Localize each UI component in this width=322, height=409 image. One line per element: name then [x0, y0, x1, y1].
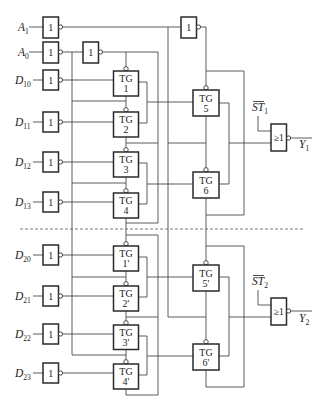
or-gate-symbol: ≥1 — [274, 133, 284, 143]
inversion-bubble — [287, 309, 291, 313]
out-tg3p-tg4p — [139, 336, 194, 375]
tg-number: 2 — [124, 124, 129, 135]
label-d22: D22 — [14, 328, 31, 343]
label-subscript: 20 — [23, 255, 31, 264]
wire-st1 — [258, 116, 271, 131]
label-subscript: 21 — [23, 296, 31, 305]
tg-2: TG 2 — [114, 108, 139, 137]
tg-1: TG 1 — [114, 67, 139, 96]
inversion-bubble — [58, 294, 62, 298]
inversion-bubble — [196, 25, 200, 29]
tg-5-prime: TG 5' — [193, 261, 219, 291]
label-subscript: 0 — [25, 52, 29, 61]
label-subscript: 1 — [25, 27, 29, 36]
not-gate-symbol: 1 — [48, 329, 53, 340]
not-gate-d23: 1 — [43, 363, 63, 383]
not-gate-symbol: 1 — [48, 75, 53, 86]
tg-6: TG 6 — [193, 168, 219, 198]
inversion-bubble — [58, 50, 62, 54]
nor-gate-1: ≥1 — [271, 124, 291, 151]
not-gate-d20: 1 — [43, 245, 63, 265]
tg-number: 5 — [204, 103, 209, 114]
label-st1: ST1 — [252, 101, 268, 116]
inversion-bubble — [98, 50, 102, 54]
nor-gate-2: ≥1 — [271, 298, 291, 325]
tg-4-prime: TG 4' — [114, 360, 139, 389]
inversion-bubble — [287, 136, 291, 140]
label-d10: D10 — [14, 74, 31, 89]
tg-number: 5' — [203, 278, 210, 289]
inversion-bubble — [58, 200, 62, 204]
label-subscript: 10 — [23, 80, 31, 89]
tg-3: TG 3 — [114, 148, 139, 177]
label-subscript: 2 — [305, 318, 309, 327]
tg-6-prime: TG 6' — [193, 340, 219, 370]
label-subscript: 23 — [23, 373, 31, 382]
tg-3-prime: TG 3' — [114, 321, 139, 350]
not-gate-symbol: 1 — [48, 22, 53, 33]
tg-number: 4' — [123, 376, 130, 387]
label-y2: Y2 — [299, 312, 309, 327]
label-d11: D11 — [14, 116, 31, 131]
inversion-bubble — [58, 160, 62, 164]
out-tg1-tg2 — [139, 82, 194, 123]
label-a0: A0 — [17, 46, 29, 61]
not-gate-a1-second: 1 — [181, 17, 201, 38]
tg-number: 6' — [203, 357, 210, 368]
label-d21: D21 — [14, 290, 31, 305]
not-gate-symbol: 1 — [186, 22, 191, 33]
label-d12: D12 — [14, 156, 31, 171]
inversion-bubble — [58, 332, 62, 336]
tg-5: TG 5 — [193, 86, 219, 116]
wires — [29, 27, 312, 395]
label-d20: D20 — [14, 249, 31, 264]
not-gate-symbol: 1 — [48, 368, 53, 379]
label-subscript: 22 — [23, 334, 31, 343]
not-gate-symbol: 1 — [48, 250, 53, 261]
tg-1-prime: TG 1' — [114, 242, 139, 271]
label-subscript: 1 — [305, 144, 309, 153]
out-tg3-tg4 — [139, 163, 194, 204]
not-gate-a1: 1 — [43, 17, 63, 38]
not-gate-d22: 1 — [43, 324, 63, 344]
not-gate-d11: 1 — [43, 112, 63, 132]
inversion-bubble — [58, 25, 62, 29]
label-subscript: 2 — [264, 281, 268, 290]
tg-2-prime: TG 2' — [114, 282, 139, 311]
tg-number: 6 — [204, 185, 209, 196]
label-subscript: 11 — [23, 122, 30, 131]
label-subscript: 13 — [23, 202, 31, 211]
tg-number: 3 — [124, 164, 129, 175]
wire-st2 — [258, 290, 271, 305]
not-gate-symbol: 1 — [48, 157, 53, 168]
inversion-bubble — [58, 78, 62, 82]
tg-number: 3' — [123, 337, 130, 348]
not-gate-a0: 1 — [43, 42, 63, 63]
label-a1: A1 — [17, 21, 29, 36]
tg-number: 2' — [123, 298, 130, 309]
tg-number: 1' — [123, 258, 130, 269]
tg-number: 1 — [124, 83, 129, 94]
not-gate-symbol: 1 — [48, 117, 53, 128]
tg-number: 4 — [124, 205, 129, 216]
inversion-bubble — [58, 371, 62, 375]
label-subscript: 1 — [264, 107, 268, 116]
not-gate-symbol: 1 — [48, 47, 53, 58]
out-tg1p-tg2p — [139, 257, 194, 297]
not-gate-a0-second: 1 — [83, 42, 103, 63]
not-gate-symbol: 1 — [48, 197, 53, 208]
inversion-bubble — [58, 253, 62, 257]
not-gate-d13: 1 — [43, 192, 63, 212]
not-gate-d21: 1 — [43, 286, 63, 306]
inversion-bubble — [58, 120, 62, 124]
label-subscript: 12 — [23, 162, 31, 171]
label-d13: D13 — [14, 196, 31, 211]
not-gate-symbol: 1 — [48, 291, 53, 302]
label-y1: Y1 — [299, 138, 309, 153]
tg-4: TG 4 — [114, 189, 139, 218]
label-st2: ST2 — [252, 275, 268, 290]
or-gate-symbol: ≥1 — [274, 307, 284, 317]
wire-a1-to-tg5 — [201, 27, 206, 86]
label-d23: D23 — [14, 367, 31, 382]
not-gate-symbol: 1 — [88, 47, 93, 58]
